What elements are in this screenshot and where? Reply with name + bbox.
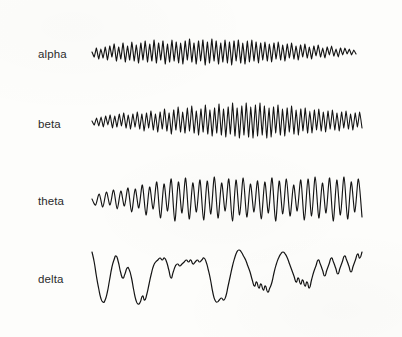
- waveform-delta: [0, 0, 402, 337]
- waveform-delta-path: [92, 250, 362, 304]
- eeg-figure: alpha beta theta delta: [0, 0, 402, 337]
